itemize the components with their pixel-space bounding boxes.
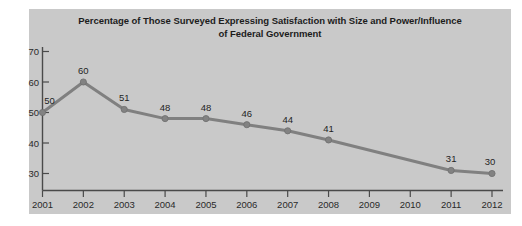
y-axis-tick-label: 30 — [28, 168, 39, 179]
data-point-label: 31 — [446, 153, 457, 164]
data-point-marker — [162, 116, 168, 122]
x-axis-tick-label: 2012 — [481, 199, 502, 210]
data-point-label: 60 — [78, 65, 89, 76]
x-axis-tick-label: 2004 — [155, 199, 176, 210]
data-point-label: 46 — [242, 108, 253, 119]
data-point-label: 51 — [119, 92, 130, 103]
x-axis-tick-label: 2009 — [359, 199, 380, 210]
data-point-label: 50 — [44, 95, 55, 106]
y-axis-tick-label: 50 — [28, 107, 39, 118]
data-point-marker — [80, 79, 86, 85]
y-axis-tick-label: 60 — [28, 77, 39, 88]
data-point-marker — [285, 128, 291, 134]
data-point-label: 41 — [323, 123, 334, 134]
x-axis-tick-label: 2007 — [277, 199, 298, 210]
data-point-marker — [203, 116, 209, 122]
y-axis-tick-labels: 3040506070 — [28, 46, 39, 179]
x-axis-tick-label: 2002 — [73, 199, 94, 210]
y-axis-tick-label: 40 — [28, 138, 39, 149]
x-axis-ticks — [43, 191, 493, 198]
data-point-marker — [121, 106, 127, 112]
data-point-marker — [489, 170, 495, 176]
x-axis-tick-label: 2005 — [195, 199, 216, 210]
data-point-marker — [325, 137, 331, 143]
x-axis-tick-label: 2003 — [114, 199, 135, 210]
y-axis-tick-label: 70 — [28, 46, 39, 57]
data-point-label: 44 — [282, 114, 293, 125]
x-axis-tick-label: 2008 — [318, 199, 339, 210]
x-axis-tick-labels: 2001200220032004200520062007200820092010… — [32, 199, 503, 210]
data-point-marker — [244, 122, 250, 128]
data-series-line — [43, 82, 493, 174]
chart-figure: Percentage of Those Surveyed Expressing … — [0, 0, 522, 226]
data-point-label: 48 — [160, 102, 171, 113]
data-point-marker — [448, 167, 454, 173]
chart-plot-area: 50605148484644413130 3040506070 20012002… — [0, 0, 522, 226]
data-point-labels: 50605148484644413130 — [44, 65, 495, 167]
x-axis-tick-label: 2010 — [400, 199, 421, 210]
x-axis-tick-label: 2001 — [32, 199, 53, 210]
x-axis-tick-label: 2011 — [441, 199, 461, 210]
x-axis-tick-label: 2006 — [236, 199, 257, 210]
data-point-label: 48 — [201, 102, 212, 113]
data-point-marker — [39, 109, 45, 115]
data-point-label: 30 — [485, 156, 496, 167]
